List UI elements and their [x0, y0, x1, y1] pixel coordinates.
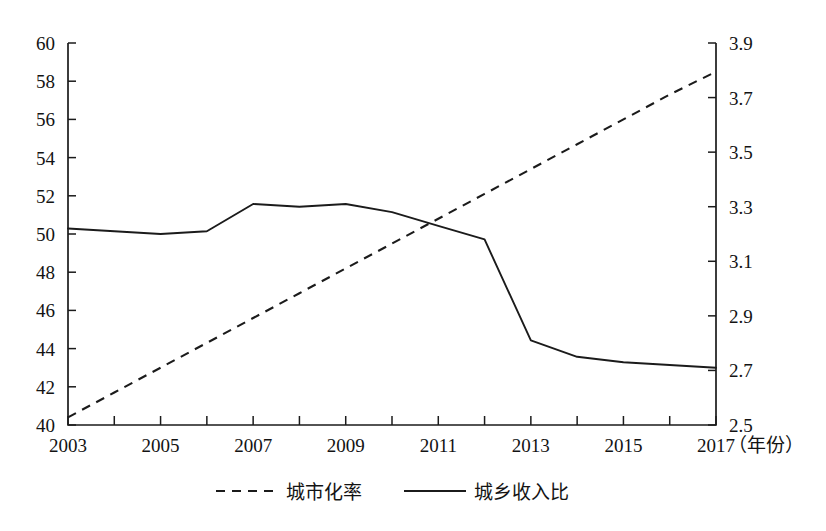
right-axis-tick-label: 3.9 — [729, 33, 753, 54]
left-axis-tick-label: 44 — [36, 339, 56, 360]
x-axis-tick-label: 2015 — [604, 435, 642, 456]
x-axis-tick-label: 2011 — [420, 435, 457, 456]
x-axis: 20032005200720092011201320152017（年份） — [49, 416, 804, 456]
right-axis-tick-label: 2.9 — [729, 306, 753, 327]
left-axis-tick-label: 58 — [36, 71, 55, 92]
dual-axis-line-chart: 4042444648505254565860 2.52.72.93.13.33.… — [0, 0, 826, 531]
legend-label-1: 城市化率 — [286, 482, 362, 503]
left-axis-tick-label: 54 — [36, 148, 56, 169]
legend-label-2: 城乡收入比 — [474, 482, 569, 503]
series-line-1 — [68, 72, 716, 418]
right-axis-tick-label: 2.7 — [729, 360, 753, 381]
left-axis-tick-label: 50 — [36, 224, 55, 245]
left-axis-tick-label: 60 — [36, 33, 55, 54]
chart-legend: 城市化率城乡收入比 — [216, 482, 569, 503]
x-axis-tick-label: 2003 — [49, 435, 87, 456]
x-axis-tick-label: 2009 — [327, 435, 365, 456]
left-axis-tick-label: 46 — [36, 300, 55, 321]
x-axis-unit-label: （年份） — [728, 435, 804, 456]
chart-figure: 4042444648505254565860 2.52.72.93.13.33.… — [0, 0, 826, 531]
x-axis-tick-label: 2007 — [234, 435, 272, 456]
right-axis-tick-label: 3.1 — [729, 251, 753, 272]
right-axis-tick-label: 3.3 — [729, 197, 753, 218]
right-axis-tick-label: 3.5 — [729, 142, 753, 163]
right-axis: 2.52.72.93.13.33.53.73.9 — [708, 33, 753, 436]
series-line-2 — [68, 204, 716, 368]
series-lines — [68, 72, 716, 418]
right-axis-tick-label: 2.5 — [729, 415, 753, 436]
left-axis: 4042444648505254565860 — [36, 33, 76, 436]
left-axis-tick-label: 40 — [36, 415, 55, 436]
right-axis-tick-label: 3.7 — [729, 88, 753, 109]
x-axis-tick-label: 2005 — [142, 435, 180, 456]
left-axis-tick-label: 42 — [36, 377, 55, 398]
left-axis-tick-label: 52 — [36, 186, 55, 207]
left-axis-tick-label: 48 — [36, 262, 55, 283]
x-axis-tick-label: 2013 — [512, 435, 550, 456]
left-axis-tick-label: 56 — [36, 109, 55, 130]
